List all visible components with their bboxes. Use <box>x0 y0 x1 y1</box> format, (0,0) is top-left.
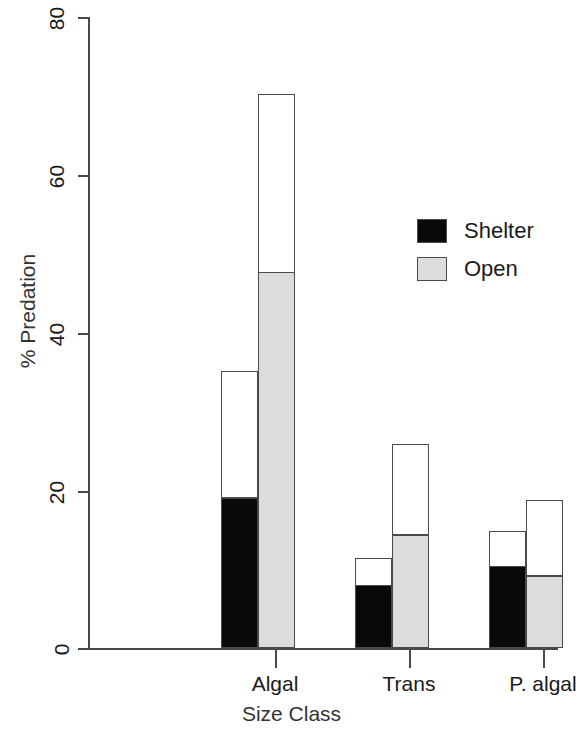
y-tick-80 <box>78 17 88 19</box>
bar-algal-shelter <box>221 371 258 648</box>
chart-legend: Shelter Open <box>417 212 534 288</box>
bar-segment-divider <box>222 497 257 499</box>
x-tick-label-trans: Trans <box>349 672 469 696</box>
legend-item-open: Open <box>417 250 534 288</box>
bar-trans-shelter <box>355 558 392 648</box>
legend-swatch-shelter-icon <box>417 219 447 243</box>
bar-segment-divider <box>356 585 391 587</box>
bar-fill-open <box>527 577 562 647</box>
bar-chart: 80 60 40 20 0 % Predation Algal Trans P.… <box>0 0 583 732</box>
legend-swatch-open-icon <box>417 257 447 281</box>
y-tick-20 <box>78 491 88 493</box>
x-tick-algal <box>275 650 277 668</box>
x-tick-p-algal <box>543 650 545 668</box>
y-tick-0 <box>78 648 88 650</box>
legend-label-open: Open <box>464 257 518 281</box>
bar-segment-divider <box>259 272 294 274</box>
y-axis-line <box>88 17 90 650</box>
bar-fill-shelter <box>222 499 257 647</box>
bar-fill-open <box>259 273 294 647</box>
bar-fill-shelter <box>490 567 525 647</box>
y-tick-label-0: 0 <box>0 639 68 660</box>
bar-trans-open <box>392 444 429 648</box>
y-tick-60 <box>78 175 88 177</box>
y-tick-label-20: 20 <box>0 482 68 503</box>
legend-item-shelter: Shelter <box>417 212 534 250</box>
y-tick-label-60: 60 <box>0 166 68 187</box>
y-axis-title: % Predation <box>17 221 39 401</box>
bar-algal-open <box>258 94 295 648</box>
legend-label-shelter: Shelter <box>464 219 534 243</box>
bar-fill-open <box>393 536 428 647</box>
bar-p-algal-open <box>526 500 563 648</box>
y-tick-40 <box>78 333 88 335</box>
bar-fill-shelter <box>356 586 391 647</box>
bar-p-algal-shelter <box>489 531 526 648</box>
bar-segment-divider <box>527 575 562 577</box>
y-tick-label-80: 80 <box>0 8 68 29</box>
x-axis-line <box>88 648 558 650</box>
bar-segment-divider <box>490 566 525 568</box>
x-tick-trans <box>409 650 411 668</box>
x-axis-title: Size Class <box>0 703 583 725</box>
bar-segment-divider <box>393 534 428 536</box>
x-tick-label-algal: Algal <box>215 672 335 696</box>
x-tick-label-p-algal: P. algal <box>483 672 583 696</box>
